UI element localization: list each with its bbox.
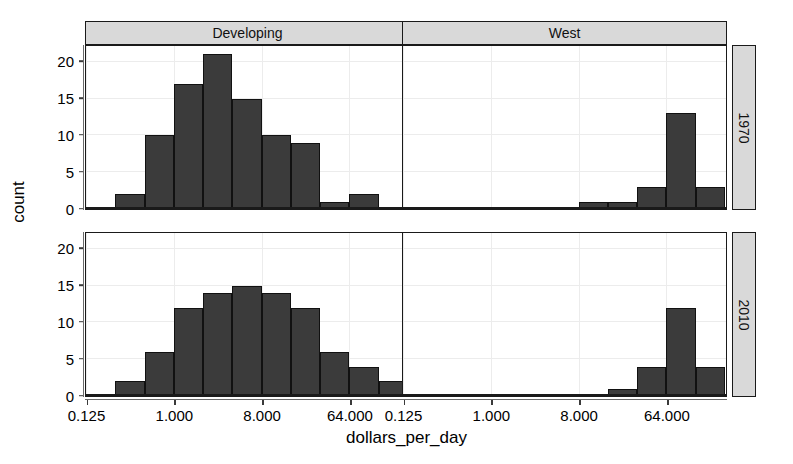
y-axis-title-label: count [9, 181, 29, 223]
x-axis-tick-mark [579, 400, 581, 405]
y-axis-line [83, 232, 84, 397]
y-axis-tick-label: 10 [40, 126, 74, 143]
histogram-bar [291, 308, 320, 396]
histogram-bar [174, 84, 203, 209]
facet-strip-col-label: West [549, 25, 581, 41]
panel-inner [86, 46, 409, 209]
gridline-horizontal [403, 98, 726, 99]
gridline-horizontal [403, 61, 726, 62]
x-axis-tick-label: 64.000 [327, 407, 373, 424]
x-axis-tick-label: 64.000 [644, 407, 690, 424]
y-axis-tick-label: 15 [40, 90, 74, 107]
facet-strip-col-label: Developing [212, 25, 282, 41]
x-axis-tick-label: 8.000 [243, 407, 281, 424]
x-axis-tick-mark [262, 400, 264, 405]
y-axis-tick-label: 0 [40, 387, 74, 404]
histogram-bar [203, 293, 232, 396]
histogram-bar [174, 308, 203, 396]
x-axis-title: dollars_per_day [85, 428, 728, 448]
histogram-bar [232, 286, 261, 396]
gridline-horizontal [86, 248, 409, 249]
panel-developing-1970 [85, 45, 410, 210]
x-axis-line [402, 399, 727, 400]
gridline-vertical [403, 46, 404, 209]
gridline-vertical [86, 233, 87, 396]
facet-strip-row-label: 2010 [736, 299, 752, 330]
y-axis-line [83, 45, 84, 210]
panel-baseline [86, 394, 409, 396]
x-axis-tick-label: 0.125 [68, 407, 106, 424]
histogram-bar [696, 367, 725, 396]
x-axis-tick-label: 1.000 [156, 407, 194, 424]
panel-baseline [86, 207, 409, 209]
y-axis-tick-label: 20 [40, 53, 74, 70]
y-axis-tick-label: 20 [40, 240, 74, 257]
x-axis-tick-label: 1.000 [473, 407, 511, 424]
x-axis-tick-label: 0.125 [385, 407, 423, 424]
y-axis-tick-label: 5 [40, 350, 74, 367]
panel-baseline [403, 394, 726, 396]
histogram-bar [232, 99, 261, 209]
x-axis-tick-mark [87, 400, 89, 405]
histogram-bar [262, 293, 291, 396]
facet-strip-col-developing: Developing [85, 21, 410, 45]
facet-strip-col-west: West [402, 21, 727, 45]
x-axis-title-label: dollars_per_day [346, 428, 467, 447]
panel-inner [403, 46, 726, 209]
histogram-bar [349, 367, 378, 396]
facet-strip-row-2010: 2010 [732, 232, 756, 397]
panel-developing-2010 [85, 232, 410, 397]
histogram-bar [320, 352, 349, 396]
faceted-histogram-plot: count dollars_per_day DevelopingWest1970… [0, 0, 793, 464]
gridline-horizontal [403, 248, 726, 249]
histogram-bar [666, 308, 695, 396]
y-axis-tick-label: 5 [40, 163, 74, 180]
gridline-vertical [491, 233, 492, 396]
histogram-bar [145, 352, 174, 396]
panel-inner [86, 233, 409, 396]
x-axis-tick-mark [174, 400, 176, 405]
facet-strip-row-1970: 1970 [732, 45, 756, 210]
y-axis-tick-label: 10 [40, 313, 74, 330]
gridline-vertical [579, 46, 580, 209]
histogram-bar [637, 187, 666, 209]
gridline-vertical [579, 233, 580, 396]
x-axis-line [85, 399, 410, 400]
x-axis-tick-mark [667, 400, 669, 405]
facet-strip-row-label: 1970 [736, 112, 752, 143]
x-axis-tick-mark [491, 400, 493, 405]
gridline-vertical [403, 233, 404, 396]
panel-west-1970 [402, 45, 727, 210]
gridline-vertical [86, 46, 87, 209]
histogram-bar [203, 54, 232, 209]
histogram-bar [262, 135, 291, 209]
gridline-horizontal [403, 285, 726, 286]
gridline-horizontal [86, 61, 409, 62]
y-axis-tick-label: 15 [40, 277, 74, 294]
gridline-vertical [349, 46, 350, 209]
panel-baseline [403, 207, 726, 209]
x-axis-tick-label: 8.000 [560, 407, 598, 424]
histogram-bar [666, 113, 695, 209]
panel-west-2010 [402, 232, 727, 397]
x-axis-tick-mark [404, 400, 406, 405]
y-axis-tick-label: 0 [40, 200, 74, 217]
histogram-bar [145, 135, 174, 209]
y-axis-title: count [4, 0, 34, 404]
histogram-bar [696, 187, 725, 209]
panel-inner [403, 233, 726, 396]
histogram-bar [637, 367, 666, 396]
gridline-vertical [491, 46, 492, 209]
x-axis-tick-mark [350, 400, 352, 405]
histogram-bar [291, 143, 320, 209]
